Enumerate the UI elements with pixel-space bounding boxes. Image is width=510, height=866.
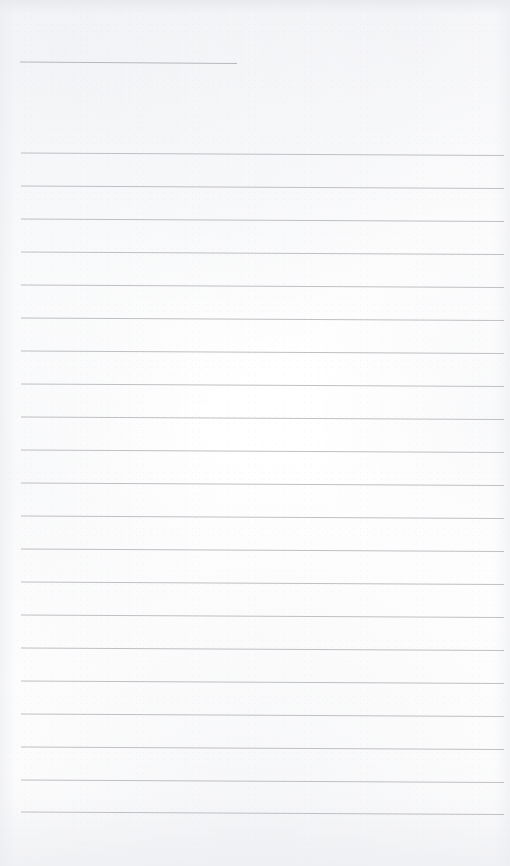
ruled-line [21,351,504,354]
ruled-line [21,285,504,288]
ruled-line [21,648,504,651]
ruled-line [21,318,504,321]
rule-group [20,62,504,815]
ruled-line [21,384,504,387]
ruled-line [21,417,504,420]
ruled-line [21,153,504,156]
header-underline-rule [20,62,237,64]
ruled-line [21,450,504,453]
ruled-line [21,780,504,783]
ruled-lines-layer [0,0,510,866]
ruled-line [21,812,504,815]
ruled-line [21,615,504,618]
ruled-line [21,549,504,552]
ruled-line [21,219,504,222]
ruled-line [21,516,504,519]
ruled-line [21,747,504,750]
ruled-line [21,252,504,255]
ruled-line [21,186,504,189]
ruled-line [21,483,504,486]
ruled-line [21,582,504,585]
scanned-page: Blank ruled notebook page (scan) [0,0,510,866]
ruled-line [21,714,504,717]
ruled-line [21,681,504,684]
